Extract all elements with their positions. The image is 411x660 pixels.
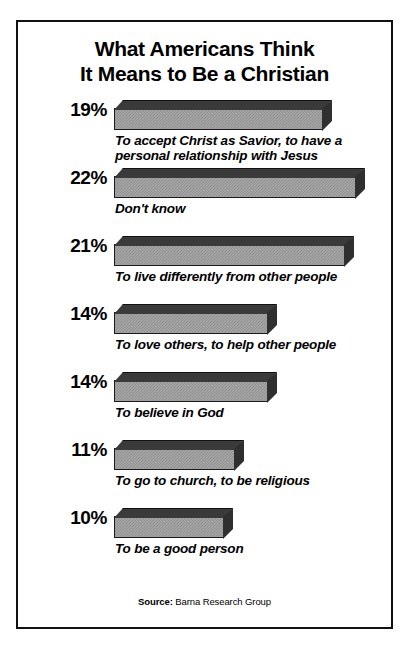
bar-row: 14% To love others, to help other people (18, 304, 391, 372)
bar-category-label: To believe in God (115, 405, 224, 420)
bar-value-label: 22% (18, 168, 107, 187)
bar-top-face (114, 508, 233, 518)
bar-category-label: Don't know (115, 201, 185, 216)
bar-category-label: To love others, to help other people (115, 337, 336, 352)
bar-row: 22% Don't know (18, 168, 391, 236)
bar-top-face (114, 100, 332, 110)
bar-3d (114, 168, 365, 198)
bar-3d (114, 236, 354, 266)
bar-value-label: 10% (18, 508, 107, 527)
bar-category-label: To live differently from other people (115, 269, 337, 284)
chart-frame: What Americans Think It Means to Be a Ch… (16, 20, 393, 629)
chart-title: What Americans Think It Means to Be a Ch… (28, 36, 381, 86)
bar-row: 14% To believe in God (18, 372, 391, 440)
chart-title-line-2: It Means to Be a Christian (28, 61, 381, 86)
bar-front-face (114, 312, 268, 334)
bar-value-label: 21% (18, 236, 107, 255)
bar-value-label: 19% (18, 100, 107, 119)
bar-row: 11% To go to church, to be religious (18, 440, 391, 508)
bar-front-face (114, 244, 345, 266)
bar-top-face (114, 236, 354, 246)
bar-top-face (114, 304, 277, 314)
bar-value-label: 14% (18, 304, 107, 323)
bar-3d (114, 372, 277, 402)
bar-category-label: To be a good person (115, 541, 243, 556)
bar-front-face (114, 516, 224, 538)
bar-3d (114, 440, 244, 470)
bar-category-label: To go to church, to be religious (115, 473, 310, 488)
bar-front-face (114, 108, 323, 130)
source-label: Source: (138, 596, 173, 607)
bar-front-face (114, 380, 268, 402)
bar-value-label: 14% (18, 372, 107, 391)
bar-3d (114, 100, 332, 130)
bar-front-face (114, 176, 356, 198)
bar-category-label: To accept Christ as Savior, to have a pe… (115, 133, 342, 163)
chart-title-line-1: What Americans Think (28, 36, 381, 61)
bar-3d (114, 508, 233, 538)
bar-row: 10% To be a good person (18, 508, 391, 576)
bar-row: 21% To live differently from other peopl… (18, 236, 391, 304)
bar-3d (114, 304, 277, 334)
bar-top-face (114, 372, 277, 382)
bar-chart-plot-area: 19% To accept Christ as Savior, to have … (18, 100, 391, 576)
bar-row: 19% To accept Christ as Savior, to have … (18, 100, 391, 168)
bar-value-label: 11% (18, 440, 107, 459)
bar-top-face (114, 440, 244, 450)
bar-front-face (114, 448, 235, 470)
bar-top-face (114, 168, 365, 178)
source-name: Barna Research Group (173, 596, 271, 607)
source-attribution: Source: Barna Research Group (18, 596, 391, 607)
